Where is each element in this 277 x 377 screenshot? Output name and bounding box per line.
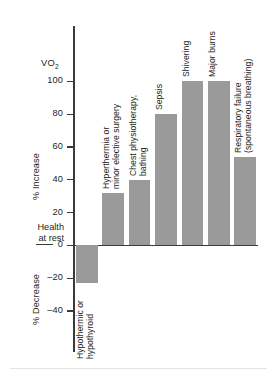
y-tick-mark — [67, 245, 74, 246]
bar-respiratory-failure — [234, 157, 256, 246]
y-tick-mark — [67, 212, 74, 213]
bar-label-line1: Major burns — [207, 31, 217, 77]
y-tick-mark — [67, 278, 74, 279]
y-tick-label: 100 — [23, 76, 63, 85]
y-tick-label: –40 — [23, 306, 63, 315]
bar-label-line2: minor elective surgery — [112, 104, 122, 189]
bar-hyperthermia-or-minor-elective-surgery — [102, 193, 124, 245]
footer-divider — [10, 368, 267, 369]
bar-label-line2: bathing — [138, 95, 148, 176]
health-at-rest-line2: at rest — [38, 233, 64, 243]
bar-caption-respiratory-failure: Respiratory failure(spontaneous breathin… — [233, 59, 253, 153]
bar-series: Hypothermic orhypothyroidHyperthermia or… — [74, 0, 260, 377]
bar-label-line1: Shivering — [181, 41, 191, 77]
bar-major-burns — [208, 81, 230, 245]
bar-shivering — [182, 81, 204, 245]
y-tick-mark — [67, 179, 74, 180]
bar-label-line2: hypothyroid — [85, 300, 95, 359]
y-axis-increase-label: % Increase — [31, 153, 41, 200]
bar-chest-physiotherapy-bathing — [129, 180, 151, 246]
y-axis-decrease-label: % Decrease — [31, 274, 41, 325]
y-tick-label: 20 — [23, 208, 63, 217]
bar-caption-hypothermic-or-hypothyroid: Hypothermic orhypothyroid — [75, 300, 95, 359]
bar-caption-major-burns: Major burns — [207, 31, 217, 77]
health-at-rest-line1: Health — [37, 222, 64, 232]
bar-label-line1: Respiratory failure — [233, 59, 243, 153]
bar-label-line1: Hypothermic or — [75, 300, 85, 359]
y-tick-label: 80 — [23, 109, 63, 118]
bar-label-line1: Chest physiotherapy, — [128, 95, 138, 176]
vo2-axis-title: VO2 — [41, 57, 59, 70]
bar-caption-shivering: Shivering — [181, 41, 191, 77]
y-tick-mark — [67, 114, 74, 115]
bar-label-line2: (spontaneous breathing) — [244, 59, 254, 153]
bar-label-line1: Hyperthermia or — [101, 104, 111, 189]
bar-label-line1: Sepsis — [154, 84, 164, 110]
bar-chart-plot: 100806040200–20–40 VO2 Health at rest % … — [0, 0, 277, 377]
health-at-rest-label: Health at rest — [14, 222, 64, 243]
y-tick-mark — [67, 81, 74, 82]
health-at-rest-rule — [36, 244, 53, 245]
bar-caption-sepsis: Sepsis — [154, 84, 164, 110]
bar-sepsis — [155, 114, 177, 245]
bar-caption-hyperthermia-or-minor-elective-surgery: Hyperthermia orminor elective surgery — [101, 104, 121, 189]
y-tick-mark — [67, 146, 74, 147]
bar-hypothermic-or-hypothyroid — [76, 245, 98, 283]
bar-caption-chest-physiotherapy-bathing: Chest physiotherapy,bathing — [128, 95, 148, 176]
y-tick-label: 60 — [23, 142, 63, 151]
figure: 100806040200–20–40 VO2 Health at rest % … — [0, 0, 277, 377]
y-tick-mark — [67, 310, 74, 311]
y-tick-label: 40 — [23, 175, 63, 184]
y-tick-label: –20 — [23, 273, 63, 282]
